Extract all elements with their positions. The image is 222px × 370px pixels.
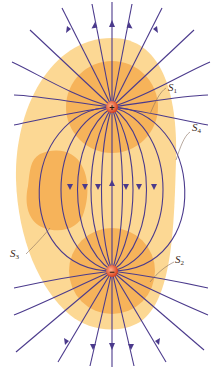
label-s2: S2	[175, 253, 185, 267]
negative-charge-symbol: −	[109, 267, 114, 277]
dipole-field-diagram: + − S1 S4 S3 S2	[0, 0, 222, 370]
positive-charge: +	[106, 101, 118, 113]
surface-s3	[27, 150, 88, 230]
label-s3: S3	[10, 247, 20, 261]
label-s1: S1	[168, 81, 178, 95]
negative-charge: −	[106, 265, 118, 277]
positive-charge-symbol: +	[109, 103, 114, 113]
